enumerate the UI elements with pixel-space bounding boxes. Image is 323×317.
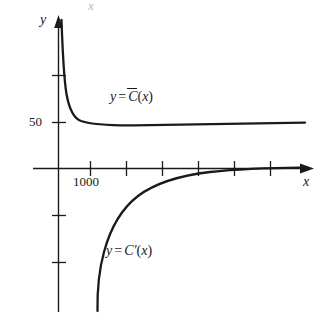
average-cost-and-marginal-cost-graph: x y x 50 1000 y=C(x) y=C′ (0, 0, 323, 317)
y-axis-label: y (40, 12, 46, 28)
x-axis-label: x (303, 174, 309, 190)
marginal-cost-label-equals: = (112, 243, 124, 258)
x-tick-label-1000: 1000 (73, 174, 99, 190)
plot-canvas (0, 0, 323, 317)
x-axis-arrowhead (300, 163, 314, 173)
marginal-cost-label-fn: C′ (124, 243, 136, 258)
y-tick-label-50: 50 (29, 114, 42, 130)
average-cost-curve (62, 20, 306, 125)
average-cost-label-arg: (x) (137, 89, 153, 104)
average-cost-curve-label: y=C(x) (110, 88, 153, 105)
average-cost-label-fn: C (128, 88, 137, 105)
average-cost-label-equals: = (116, 89, 128, 104)
marginal-cost-curve-label: y=C′(x) (106, 243, 152, 259)
marginal-cost-label-arg: (x) (137, 243, 153, 258)
marginal-cost-curve (97, 168, 300, 311)
